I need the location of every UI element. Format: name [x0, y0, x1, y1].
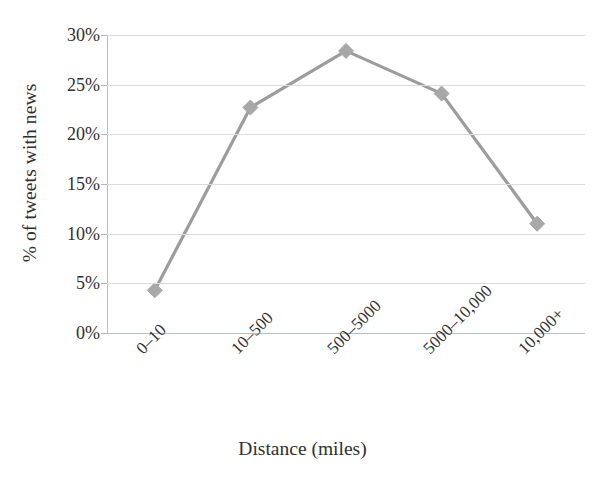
y-tick-label: 25% — [54, 76, 100, 94]
y-tick-label: 30% — [54, 26, 100, 44]
y-tick-mark — [101, 184, 107, 185]
gridline — [107, 85, 585, 86]
data-point-marker — [243, 100, 258, 115]
y-tick-mark — [101, 283, 107, 284]
series-line — [155, 51, 537, 290]
y-axis-tick-labels: 30%25%20%15%10%5%0% — [48, 0, 100, 482]
x-axis-title: Distance (miles) — [0, 438, 605, 460]
gridline — [107, 35, 585, 36]
y-tick-mark — [101, 85, 107, 86]
y-tick-label: 10% — [54, 225, 100, 243]
gridline — [107, 234, 585, 235]
y-tick-label: 15% — [54, 175, 100, 193]
data-point-marker — [147, 283, 162, 298]
gridline — [107, 283, 585, 284]
x-axis-title-text: Distance (miles) — [238, 438, 366, 459]
y-tick-label: 20% — [54, 125, 100, 143]
gridline — [107, 184, 585, 185]
y-tick-label: 5% — [54, 274, 100, 292]
y-tick-label: 0% — [54, 324, 100, 342]
y-tick-mark — [101, 333, 107, 334]
gridline — [107, 134, 585, 135]
y-tick-mark — [101, 234, 107, 235]
y-tick-mark — [101, 35, 107, 36]
plot-area — [107, 35, 585, 333]
y-axis-title-text: % of tweets with news — [19, 83, 41, 262]
data-point-marker — [339, 43, 354, 58]
chart-figure: % of tweets with news 30%25%20%15%10%5%0… — [0, 0, 605, 482]
y-tick-mark — [101, 134, 107, 135]
